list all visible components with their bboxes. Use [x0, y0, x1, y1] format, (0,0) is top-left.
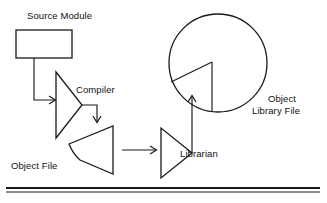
compiler-label: Compiler: [76, 84, 115, 96]
source-module-label: Source Module: [27, 10, 92, 22]
object-library-file-label: Object Library File: [268, 93, 300, 116]
diagram-canvas: Source Module Compiler Object File Libra…: [0, 0, 327, 203]
source-module-shape: [16, 30, 72, 58]
librarian-label: Librarian: [180, 148, 218, 160]
source-to-compiler-connector: [34, 58, 55, 100]
object-library-file-shape: [169, 14, 267, 112]
object-library-file-label-line-2: Library File: [252, 105, 300, 117]
object-library-file-label-line-1: Object: [268, 93, 296, 104]
object-file-shape: [69, 126, 113, 174]
object-file-label: Object File: [11, 160, 58, 172]
object-library-file-wedge-chord: [171, 62, 212, 82]
compiler-shape: [56, 72, 82, 138]
